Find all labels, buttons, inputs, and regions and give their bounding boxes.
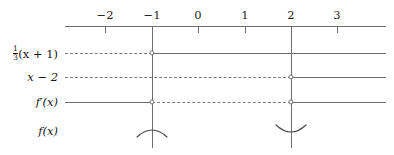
- axis-label--1: −1: [144, 8, 161, 22]
- axis-label-0: 0: [194, 8, 201, 22]
- factor-expression: (x + 1): [18, 47, 58, 61]
- axis-tick--2: [105, 26, 106, 33]
- local-maximum-arc-at--1: [135, 122, 169, 140]
- axis-tick-1: [245, 26, 246, 33]
- row-label-x-minus-two: x − 2: [27, 70, 58, 84]
- row-2-positive-segment: [291, 77, 386, 78]
- row-3-zero-dot-at-2: [288, 99, 293, 104]
- cup-arc-path: [276, 125, 306, 132]
- row-label-one-third-x-plus-one: 1 3 (x + 1): [13, 45, 58, 62]
- row-2-negative-segment: [65, 77, 291, 78]
- row-1-negative-segment: [65, 53, 152, 54]
- local-minimum-arc-at-2: [274, 122, 308, 140]
- row-1-positive-segment: [152, 53, 386, 54]
- axis-label-3: 3: [333, 8, 340, 22]
- axis-label-2: 2: [287, 8, 294, 22]
- row-3-positive-segment-left: [65, 102, 152, 103]
- row-label-function: f(x): [38, 124, 58, 138]
- row-1-zero-dot-at--1: [149, 50, 154, 55]
- row-3-negative-segment-middle: [152, 102, 291, 103]
- axis-label-1: 1: [241, 8, 248, 22]
- axis-tick-0: [198, 26, 199, 33]
- row-label-derivative: f′(x): [36, 95, 58, 109]
- axis-tick-3: [337, 26, 338, 33]
- cap-arc-path: [137, 130, 167, 137]
- row-3-positive-segment-right: [291, 102, 386, 103]
- sign-chart-figure: −2 −1 0 1 2 3 1 3 (x + 1) x − 2 f′(x) f(…: [0, 0, 394, 155]
- axis-label--2: −2: [97, 8, 114, 22]
- row-3-zero-dot-at--1: [149, 99, 154, 104]
- row-2-zero-dot-at-2: [288, 74, 293, 79]
